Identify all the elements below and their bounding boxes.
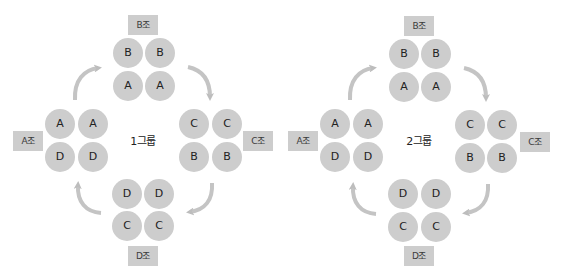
- seat-d: D: [353, 142, 383, 172]
- seat-c: C: [112, 211, 142, 241]
- seat-d: D: [45, 142, 75, 172]
- seat-d: D: [112, 179, 142, 209]
- seat-d: D: [388, 179, 418, 209]
- arrow-right-to-bottom-icon: [190, 183, 212, 212]
- seat-b: B: [421, 39, 451, 69]
- arrow-top-to-right-icon: [188, 67, 210, 97]
- seat-b: B: [455, 143, 485, 173]
- team-label-d: D조: [404, 246, 434, 266]
- seat-a: A: [78, 109, 108, 139]
- seat-c: C: [144, 211, 174, 241]
- seat-c: C: [212, 109, 242, 139]
- group-title: 1그룹: [123, 134, 163, 150]
- seat-a: A: [145, 71, 175, 101]
- seat-c: C: [388, 212, 418, 242]
- seat-c: C: [179, 109, 209, 139]
- team-label-b: B조: [128, 15, 158, 35]
- seat-a: A: [389, 72, 419, 102]
- seat-c: C: [421, 212, 451, 242]
- team-label-b: B조: [404, 16, 434, 36]
- seat-a: A: [113, 71, 143, 101]
- seat-b: B: [212, 142, 242, 172]
- arrow-top-to-right-icon: [464, 68, 486, 98]
- seat-d: D: [421, 179, 451, 209]
- seat-a: A: [320, 109, 350, 139]
- arrow-left-to-top-icon: [350, 68, 373, 100]
- team-label-a: A조: [13, 131, 43, 151]
- arrow-bottom-to-left-icon: [353, 186, 376, 214]
- group-title: 2그룹: [399, 134, 439, 150]
- seat-c: C: [487, 110, 517, 140]
- rotation-diagram-group-1: B조 B B A A A조 A A D D C조 C C B B D D C C…: [0, 0, 280, 279]
- seat-a: A: [353, 109, 383, 139]
- seat-b: B: [145, 38, 175, 68]
- seat-b: B: [179, 142, 209, 172]
- seat-a: A: [421, 72, 451, 102]
- arrow-right-to-bottom-icon: [466, 184, 488, 213]
- seat-c: C: [455, 110, 485, 140]
- rotation-diagram-group-2: B조 B B A A A조 A A D D C조 C C B B D D C C…: [276, 0, 556, 279]
- arrow-left-to-top-icon: [75, 68, 98, 100]
- seat-b: B: [487, 143, 517, 173]
- team-label-c: C조: [243, 131, 273, 151]
- team-label-c: C조: [520, 132, 550, 152]
- seat-d: D: [78, 142, 108, 172]
- seat-b: B: [113, 38, 143, 68]
- team-label-a: A조: [288, 131, 318, 151]
- team-label-d: D조: [128, 246, 158, 266]
- arrow-bottom-to-left-icon: [78, 185, 101, 213]
- seat-a: A: [45, 109, 75, 139]
- seat-d: D: [320, 142, 350, 172]
- seat-d: D: [144, 179, 174, 209]
- seat-b: B: [389, 39, 419, 69]
